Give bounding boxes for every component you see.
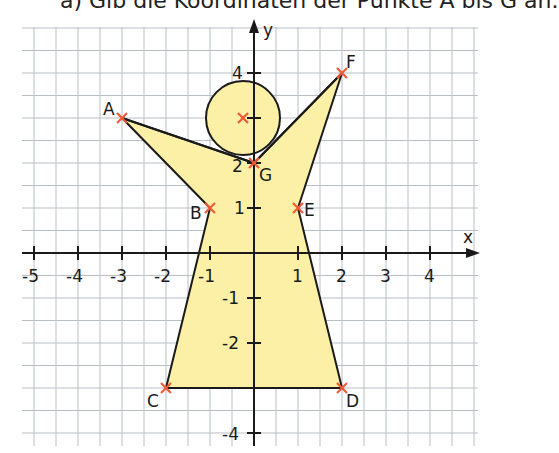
x-tick-label: 4 [424,266,435,286]
x-tick-label: 2 [336,266,347,286]
x-tick-label: -4 [66,266,83,286]
x-axis-arrow-icon [466,248,480,258]
x-tick-label: 1 [292,266,303,286]
x-tick-label: 3 [380,266,391,286]
y-tick-label: -4 [222,424,239,444]
y-axis-arrow-icon [249,19,259,33]
point-label-b: B [190,203,202,223]
x-tick-label: -1 [198,266,215,286]
x-axis-label: x [463,227,473,247]
x-tick-label: -3 [110,266,127,286]
point-label-a: A [103,99,115,119]
point-label-e: E [304,200,315,220]
point-label-g: G [259,165,272,185]
x-tick-label: -2 [154,266,171,286]
y-axis-label: y [263,20,273,40]
x-tick-label: -5 [22,266,39,286]
point-label-d: D [346,391,359,411]
y-tick-label: 1 [234,198,245,218]
y-tick-label: 2 [232,156,243,176]
point-label-f: F [346,52,356,72]
point-label-c: C [147,391,159,411]
y-tick-label: -1 [222,288,239,308]
y-tick-label: 4 [232,63,243,83]
y-tick-label: -2 [222,333,239,353]
